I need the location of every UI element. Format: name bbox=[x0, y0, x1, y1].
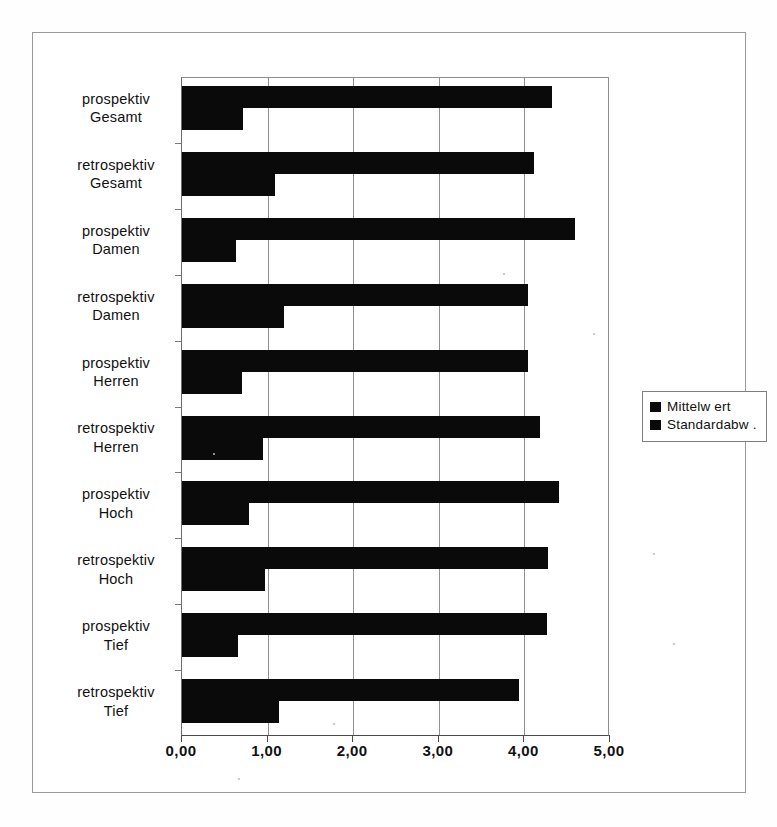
plot-area bbox=[181, 77, 609, 736]
x-axis-tick bbox=[523, 735, 524, 742]
bar-standardabw bbox=[182, 701, 279, 723]
bar-standardabw bbox=[182, 306, 284, 328]
category-label: retrospektivTief bbox=[57, 683, 175, 720]
x-axis-tick-label: 3,00 bbox=[422, 742, 453, 759]
x-axis-labels: 0,001,002,003,004,005,00 bbox=[181, 742, 609, 768]
category-label-line: Damen bbox=[57, 306, 175, 325]
category-label-line: prospektiv bbox=[57, 485, 175, 504]
category-label-line: Hoch bbox=[57, 504, 175, 523]
bar-standardabw bbox=[182, 174, 275, 196]
bar-standardabw bbox=[182, 569, 265, 591]
legend: Mittelw ert Standardabw . bbox=[642, 391, 767, 442]
category-label-line: Hoch bbox=[57, 570, 175, 589]
scan-speckle bbox=[333, 723, 335, 725]
bar-mittelwert bbox=[182, 284, 528, 306]
category-label-line: Herren bbox=[57, 438, 175, 457]
bar-row bbox=[182, 613, 608, 671]
x-axis-tick-label: 5,00 bbox=[594, 742, 625, 759]
bar-rows bbox=[182, 78, 608, 735]
legend-swatch-mittelwert bbox=[650, 402, 661, 412]
category-label: prospektivHoch bbox=[57, 485, 175, 522]
scan-speckle bbox=[503, 273, 505, 275]
category-label-line: Damen bbox=[57, 240, 175, 259]
category-label: prospektivDamen bbox=[57, 222, 175, 259]
category-label: prospektivTief bbox=[57, 617, 175, 654]
category-label-line: prospektiv bbox=[57, 90, 175, 109]
legend-swatch-standardabw bbox=[650, 420, 661, 430]
scan-speckle bbox=[593, 333, 595, 335]
category-label-line: retrospektiv bbox=[57, 288, 175, 307]
bar-mittelwert bbox=[182, 547, 548, 569]
bar-standardabw bbox=[182, 372, 242, 394]
bar-row bbox=[182, 86, 608, 144]
bar-mittelwert bbox=[182, 416, 540, 438]
bar-standardabw bbox=[182, 240, 236, 262]
bar-row bbox=[182, 679, 608, 737]
bar-row bbox=[182, 152, 608, 210]
bar-standardabw bbox=[182, 108, 243, 130]
bar-standardabw bbox=[182, 438, 263, 460]
category-label: prospektivGesamt bbox=[57, 90, 175, 127]
bar-row bbox=[182, 284, 608, 342]
category-label-line: retrospektiv bbox=[57, 551, 175, 570]
category-label: retrospektivHoch bbox=[57, 551, 175, 588]
bar-mittelwert bbox=[182, 350, 528, 372]
category-label: retrospektivHerren bbox=[57, 419, 175, 456]
chart-frame: prospektivGesamtretrospektivGesamtprospe… bbox=[32, 32, 746, 793]
category-label-line: retrospektiv bbox=[57, 156, 175, 175]
bar-mittelwert bbox=[182, 679, 519, 701]
x-axis-tick bbox=[438, 735, 439, 742]
category-label: retrospektivGesamt bbox=[57, 156, 175, 193]
x-axis-tick-label: 4,00 bbox=[508, 742, 539, 759]
bar-mittelwert bbox=[182, 152, 534, 174]
bar-row bbox=[182, 481, 608, 539]
x-axis-tick-label: 0,00 bbox=[166, 742, 197, 759]
category-label-line: Tief bbox=[57, 636, 175, 655]
x-axis-tick bbox=[352, 735, 353, 742]
bar-standardabw bbox=[182, 503, 249, 525]
category-label-line: Tief bbox=[57, 702, 175, 721]
category-label-line: prospektiv bbox=[57, 222, 175, 241]
category-label-line: retrospektiv bbox=[57, 683, 175, 702]
category-label-line: prospektiv bbox=[57, 617, 175, 636]
scan-speckle bbox=[673, 643, 675, 645]
category-label-line: prospektiv bbox=[57, 354, 175, 373]
category-label-line: Gesamt bbox=[57, 108, 175, 127]
bar-mittelwert bbox=[182, 86, 552, 108]
x-axis-tick bbox=[609, 735, 610, 742]
bar-mittelwert bbox=[182, 481, 559, 503]
x-axis-tick-label: 1,00 bbox=[251, 742, 282, 759]
bar-row bbox=[182, 416, 608, 474]
category-label-line: retrospektiv bbox=[57, 419, 175, 438]
category-axis-labels: prospektivGesamtretrospektivGesamtprospe… bbox=[55, 77, 175, 736]
legend-label-mittelwert: Mittelw ert bbox=[667, 399, 731, 414]
scan-speckle bbox=[653, 553, 655, 555]
legend-item: Standardabw . bbox=[650, 417, 757, 432]
scan-speckle bbox=[213, 453, 215, 455]
category-label: prospektivHerren bbox=[57, 354, 175, 391]
bar-mittelwert bbox=[182, 218, 575, 240]
scanned-page: prospektivGesamtretrospektivGesamtprospe… bbox=[0, 0, 777, 827]
legend-label-standardabw: Standardabw . bbox=[667, 417, 757, 432]
legend-item: Mittelw ert bbox=[650, 399, 757, 414]
category-label: retrospektivDamen bbox=[57, 288, 175, 325]
bar-standardabw bbox=[182, 635, 238, 657]
x-axis-tick bbox=[267, 735, 268, 742]
x-axis-tick-label: 2,00 bbox=[337, 742, 368, 759]
bar-row bbox=[182, 547, 608, 605]
bar-row bbox=[182, 350, 608, 408]
scan-speckle bbox=[238, 778, 240, 780]
bar-row bbox=[182, 218, 608, 276]
category-label-line: Herren bbox=[57, 372, 175, 391]
x-axis-tick bbox=[181, 735, 182, 742]
category-label-line: Gesamt bbox=[57, 174, 175, 193]
bar-mittelwert bbox=[182, 613, 547, 635]
